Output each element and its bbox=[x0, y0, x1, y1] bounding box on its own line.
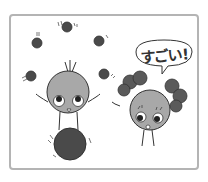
bouncing-ball bbox=[54, 128, 86, 160]
girl-character bbox=[112, 71, 187, 146]
cartoon-scene bbox=[0, 0, 208, 182]
juggler-character bbox=[36, 60, 100, 160]
speech-bubble-text: すごい! bbox=[139, 42, 188, 66]
